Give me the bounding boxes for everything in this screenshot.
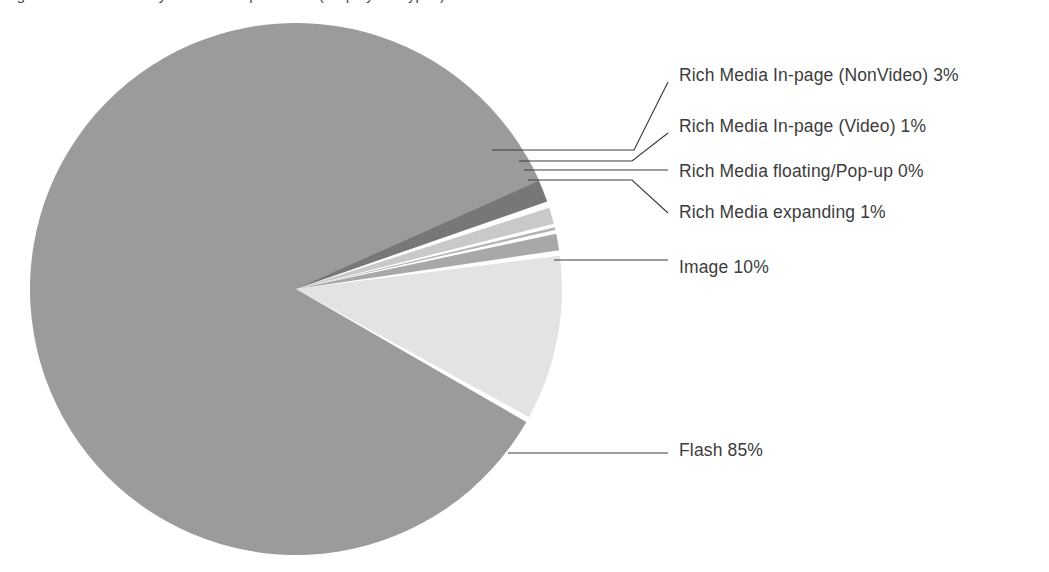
callout-rich-media-floating-popup-label: Rich Media floating/Pop-up 0% bbox=[679, 161, 924, 181]
callout-rich-media-inpage-video-leader bbox=[519, 133, 668, 161]
pie-chart: Rich Media In-page (NonVideo) 3%Rich Med… bbox=[0, 0, 1049, 572]
chart-canvas: Figure 3: Ad Formats by Share of Impress… bbox=[0, 0, 1049, 572]
callout-rich-media-expanding-label: Rich Media expanding 1% bbox=[679, 202, 886, 222]
callout-rich-media-inpage-nonvideo-label: Rich Media In-page (NonVideo) 3% bbox=[679, 65, 959, 85]
pie-slices: Rich Media In-page (NonVideo) 3%Rich Med… bbox=[30, 23, 562, 555]
slice-labels: Rich Media In-page (NonVideo) 3%Rich Med… bbox=[679, 65, 959, 460]
callout-image-label: Image 10% bbox=[679, 257, 769, 277]
callout-rich-media-inpage-nonvideo-leader bbox=[492, 82, 668, 150]
callout-rich-media-inpage-video-label: Rich Media In-page (Video) 1% bbox=[679, 116, 926, 136]
callout-flash-label: Flash 85% bbox=[679, 440, 763, 460]
